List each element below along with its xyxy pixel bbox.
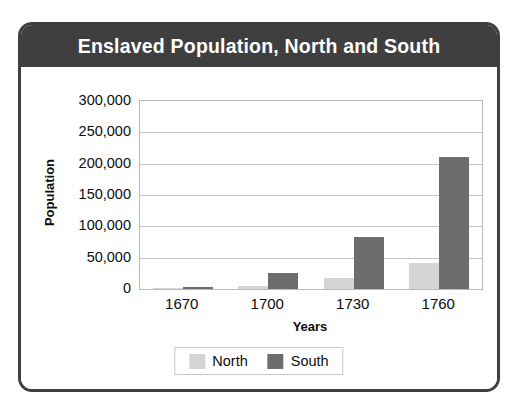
bar-south-1700[interactable]	[268, 273, 298, 289]
x-tick-label: 1730	[336, 295, 369, 312]
bars-layer	[140, 101, 482, 289]
bar-north-1760[interactable]	[409, 263, 439, 289]
x-tick-label: 1700	[251, 295, 284, 312]
bar-south-1760[interactable]	[439, 157, 469, 289]
bar-south-1730[interactable]	[354, 237, 384, 289]
bar-group	[324, 101, 384, 289]
chart-legend: NorthSouth	[174, 347, 343, 375]
chart-title-bar: Enslaved Population, North and South	[21, 25, 497, 67]
x-tick-label: 1760	[422, 295, 455, 312]
y-axis-tick-labels: 050,000100,000150,000200,000250,000300,0…	[45, 100, 131, 288]
bar-group	[153, 101, 213, 289]
x-tick-label: 1670	[165, 295, 198, 312]
bar-north-1730[interactable]	[324, 278, 354, 289]
plot-area	[139, 100, 483, 290]
legend-label: North	[212, 353, 247, 369]
bar-south-1670[interactable]	[183, 287, 213, 289]
legend-item-north[interactable]: North	[189, 353, 247, 369]
bar-north-1670[interactable]	[153, 288, 183, 290]
y-tick-label: 150,000	[45, 186, 131, 202]
y-tick-label: 300,000	[45, 92, 131, 108]
plot-region: Population 050,000100,000150,000200,0002…	[21, 67, 497, 389]
legend-label: South	[291, 353, 329, 369]
legend-item-south[interactable]: South	[268, 353, 329, 369]
legend-swatch-north	[189, 354, 205, 369]
y-tick-label: 0	[45, 280, 131, 296]
y-tick-label: 250,000	[45, 123, 131, 139]
chart-title: Enslaved Population, North and South	[78, 35, 441, 58]
bar-north-1700[interactable]	[238, 286, 268, 289]
x-axis-title: Years	[139, 319, 481, 334]
bar-group	[409, 101, 469, 289]
y-tick-label: 50,000	[45, 249, 131, 265]
chart-card: Enslaved Population, North and South Pop…	[18, 22, 500, 392]
y-tick-label: 200,000	[45, 155, 131, 171]
bar-group	[238, 101, 298, 289]
x-axis-tick-labels: 1670170017301760	[139, 295, 481, 317]
legend-swatch-south	[268, 354, 284, 369]
y-tick-label: 100,000	[45, 217, 131, 233]
